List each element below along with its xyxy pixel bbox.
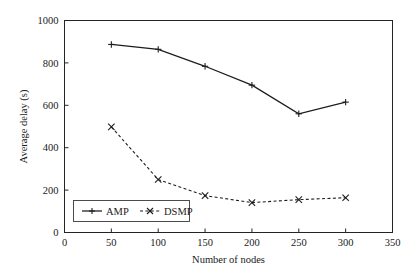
y-tick-label: 400 (43, 142, 59, 153)
x-axis-tick-labels: 050100150200250300350 (62, 237, 401, 248)
series-line-dsmp (111, 127, 345, 203)
x-tick-label: 50 (106, 237, 117, 248)
data-series-layer (108, 41, 349, 206)
series-line-amp (111, 44, 345, 113)
x-tick-label: 200 (244, 237, 260, 248)
x-axis-ticks (65, 229, 393, 233)
y-axis-title: Average delay (s) (18, 89, 30, 163)
y-tick-label: 200 (43, 185, 59, 196)
x-tick-label: 350 (385, 237, 401, 248)
chart-legend: AMPDSMP (74, 201, 193, 222)
legend-label-amp: AMP (106, 206, 129, 217)
x-axis-title: Number of nodes (192, 254, 265, 265)
line-chart: 050100150200250300350 02004006008001000 … (0, 0, 417, 273)
y-tick-label: 600 (43, 100, 59, 111)
y-tick-label: 0 (53, 227, 58, 238)
series-dsmp (108, 124, 349, 206)
y-tick-label: 1000 (38, 15, 59, 26)
series-amp (108, 41, 349, 117)
x-tick-label: 0 (62, 237, 67, 248)
x-tick-label: 150 (197, 237, 213, 248)
chart-figure: 050100150200250300350 02004006008001000 … (0, 0, 417, 273)
x-tick-label: 300 (338, 237, 354, 248)
y-axis-ticks (65, 21, 69, 233)
legend-label-dsmp: DSMP (164, 206, 193, 217)
x-tick-label: 250 (291, 237, 307, 248)
y-axis-tick-labels: 02004006008001000 (38, 15, 59, 238)
y-tick-label: 800 (43, 58, 59, 69)
x-tick-label: 100 (150, 237, 166, 248)
